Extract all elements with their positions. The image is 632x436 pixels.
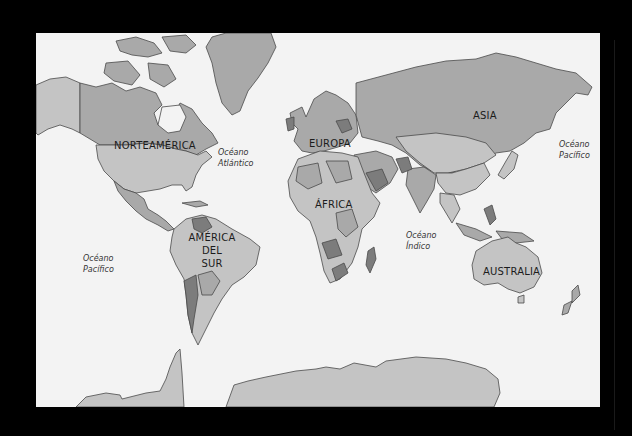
label-north-america: NORTEAMÉRICA [114,140,196,151]
ocean-line: Océano [559,139,590,150]
madagascar-shape [366,247,376,273]
ocean-line: Pacífico [83,264,114,275]
ocean-line: Océano [406,230,436,241]
australia-shape [472,237,542,293]
alaska-shape [36,77,80,135]
label-asia: ASIA [473,110,497,121]
label-indian-ocean: Océano Índico [406,230,436,252]
world-map: NORTEAMÉRICA EUROPA ÁFRICA ASIA AMÉRICA … [36,33,600,407]
ocean-line: Índico [406,241,436,252]
ocean-line: Océano [83,253,114,264]
antarctica-shape [76,349,184,407]
label-south-america-line-2: DEL [189,244,236,257]
greenland-shape [206,33,276,115]
new-zealand-shape [572,285,580,303]
label-pacific-ocean-east: Océano Pacífico [559,139,590,161]
label-south-america-line-1: AMÉRICA [189,231,236,244]
label-south-america-line-3: SUR [189,257,236,270]
label-pacific-ocean-west: Océano Pacífico [83,253,114,275]
ocean-line: Atlántico [218,158,253,169]
india-shape [406,167,436,213]
japan-shape [498,151,518,179]
label-australia: AUSTRALIA [483,266,540,277]
label-atlantic-ocean: Océano Atlántico [218,147,253,169]
label-south-america: AMÉRICA DEL SUR [189,231,236,270]
ocean-line: Océano [218,147,253,158]
ocean-line: Pacífico [559,150,590,161]
map-canvas [36,33,600,407]
label-africa: ÁFRICA [315,199,353,210]
label-europe: EUROPA [309,138,351,149]
frame-edge-line [614,40,615,430]
